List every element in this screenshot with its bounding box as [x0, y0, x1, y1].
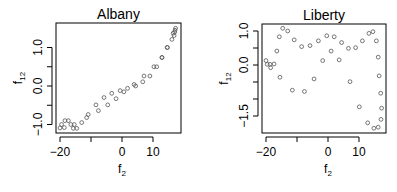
plot-frame — [262, 24, 386, 133]
x-axis: −20010f2 — [256, 137, 366, 178]
x-tick-label: −20 — [256, 145, 277, 159]
data-point — [376, 125, 380, 129]
data-point — [367, 31, 371, 35]
x-axis-label: f2 — [324, 162, 332, 178]
data-point — [286, 29, 290, 33]
y-tick-label: −1.5 — [237, 104, 251, 128]
data-point — [300, 45, 304, 49]
y-axis-label: f12 — [217, 72, 233, 85]
figure: Albany−20010f2−1.00.01.0f12 Liberty−2001… — [0, 0, 397, 192]
data-point — [316, 39, 320, 43]
data-point — [281, 26, 285, 30]
data-point — [380, 106, 384, 110]
data-point — [366, 121, 370, 125]
chart-title-liberty: Liberty — [303, 7, 345, 23]
data-point — [354, 46, 358, 50]
data-point — [292, 38, 296, 42]
data-point — [340, 41, 344, 45]
x-tick-label: 10 — [352, 145, 366, 159]
data-point — [264, 59, 268, 63]
data-points — [264, 26, 383, 130]
data-point — [278, 75, 282, 79]
data-point — [372, 126, 376, 130]
data-point — [376, 55, 380, 59]
data-point — [303, 90, 307, 94]
data-point — [272, 62, 276, 66]
data-point — [371, 30, 375, 34]
data-point — [379, 118, 383, 122]
data-point — [332, 35, 336, 39]
data-point — [379, 91, 383, 95]
data-point — [374, 39, 378, 43]
data-point — [325, 34, 329, 38]
data-point — [357, 105, 361, 109]
y-tick-label: 0.0 — [237, 56, 251, 73]
x-tick-label: 0 — [325, 145, 332, 159]
scatter-plot-liberty: Liberty−20010f2−1.50.01.0f12 — [0, 0, 397, 192]
data-point — [337, 58, 341, 62]
y-tick-label: 1.0 — [237, 22, 251, 39]
data-point — [277, 35, 281, 39]
data-point — [321, 59, 325, 63]
data-point — [312, 77, 316, 81]
data-point — [361, 39, 365, 43]
data-point — [290, 88, 294, 92]
data-point — [347, 46, 351, 50]
y-axis: −1.50.01.0f12 — [217, 22, 258, 128]
data-point — [377, 74, 381, 78]
data-point — [329, 49, 333, 53]
data-point — [308, 44, 312, 48]
data-point — [348, 80, 352, 84]
data-point — [275, 49, 279, 53]
